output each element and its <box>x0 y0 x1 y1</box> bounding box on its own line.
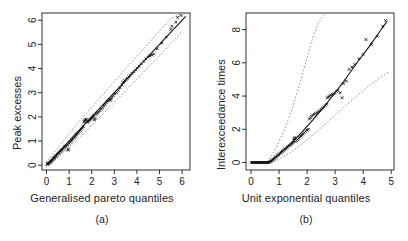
reference-line <box>47 17 186 166</box>
data-point <box>169 28 172 31</box>
data-point <box>341 96 344 99</box>
panel-caption-a: (a) <box>0 213 204 225</box>
y-tick-label: 6 <box>232 60 243 66</box>
y-tick-label: 2 <box>28 114 39 120</box>
x-tick-label: 6 <box>179 176 185 187</box>
data-point <box>348 68 351 71</box>
data-point <box>174 21 177 24</box>
plot-a: 01234560123456 <box>0 0 204 241</box>
panel-b: 01234502468 Interexceedance times Unit e… <box>204 0 408 241</box>
data-point <box>140 62 143 65</box>
data-point <box>156 47 159 50</box>
data-point <box>365 38 368 41</box>
x-tick-label: 4 <box>360 176 366 187</box>
data-point <box>384 19 387 22</box>
y-tick-label: 5 <box>28 41 39 47</box>
data-point <box>171 25 174 28</box>
data-layer <box>46 13 186 167</box>
data-point <box>142 60 145 63</box>
plot-b: 01234502468 <box>204 0 408 241</box>
data-point <box>351 66 354 69</box>
x-tick-label: 3 <box>332 176 338 187</box>
data-point <box>180 14 183 17</box>
confidence-band-upper <box>47 13 183 163</box>
x-tick-label: 2 <box>89 176 95 187</box>
y-axis-title-b: Interexceedance times <box>215 59 227 170</box>
y-tick-label: 4 <box>232 93 243 99</box>
data-point <box>339 91 342 94</box>
figure-container: 01234560123456 Peak excesses Generalised… <box>0 0 408 241</box>
x-axis-title-b: Unit exponential quantiles <box>204 192 408 204</box>
y-tick-label: 4 <box>28 65 39 71</box>
data-point <box>165 36 168 39</box>
data-point <box>138 65 141 68</box>
data-point <box>345 80 348 83</box>
x-tick-label: 4 <box>134 176 140 187</box>
plot-frame <box>246 13 394 170</box>
x-tick-label: 0 <box>44 176 50 187</box>
x-tick-label: 1 <box>276 176 282 187</box>
panel-a: 01234560123456 Peak excesses Generalised… <box>0 0 204 241</box>
x-tick-label: 3 <box>112 176 118 187</box>
y-tick-label: 8 <box>232 26 243 32</box>
y-tick-label: 0 <box>232 159 243 165</box>
reference-line <box>251 21 387 162</box>
x-tick-label: 0 <box>248 176 254 187</box>
x-axis-title-a: Generalised pareto quantiles <box>0 192 204 204</box>
data-point <box>176 16 179 19</box>
x-tick-label: 5 <box>388 176 394 187</box>
data-layer <box>250 15 388 164</box>
y-tick-label: 2 <box>232 126 243 132</box>
y-tick-label: 0 <box>28 162 39 168</box>
y-tick-label: 1 <box>28 138 39 144</box>
x-tick-label: 1 <box>66 176 72 187</box>
x-tick-label: 5 <box>157 176 163 187</box>
x-tick-label: 2 <box>304 176 310 187</box>
panel-caption-b: (b) <box>204 213 408 225</box>
y-axis-title-a: Peak excesses <box>11 76 23 150</box>
y-tick-label: 3 <box>28 89 39 95</box>
y-tick-label: 6 <box>27 17 38 23</box>
